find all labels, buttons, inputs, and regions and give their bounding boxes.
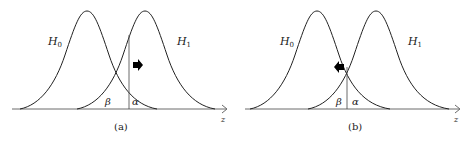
arrow-right-icon: [133, 59, 143, 71]
z-label: z: [220, 115, 226, 124]
caption-a: (a): [114, 121, 128, 132]
panel-b: H0 H1 β α z (b): [245, 11, 460, 132]
caption-b: (b): [348, 121, 362, 132]
beta-label: β: [335, 96, 342, 107]
h1-curve: [308, 11, 449, 109]
arrow-left-icon: [334, 61, 344, 73]
h1-label: H1: [407, 35, 422, 49]
h1-curve: [77, 11, 215, 109]
beta-label: β: [104, 96, 111, 107]
panel-a: H0 H1 β α z (a): [12, 11, 227, 132]
h0-curve: [250, 11, 390, 109]
alpha-label: α: [132, 96, 139, 107]
alpha-label: α: [352, 96, 359, 107]
h0-curve: [20, 11, 157, 109]
h0-label: H0: [279, 35, 294, 49]
h0-label: H0: [47, 35, 62, 49]
diagram-canvas: H0 H1 β α z (a) H0 H1 β α z (b): [0, 0, 470, 142]
h1-label: H1: [176, 35, 191, 49]
z-label: z: [453, 115, 459, 124]
